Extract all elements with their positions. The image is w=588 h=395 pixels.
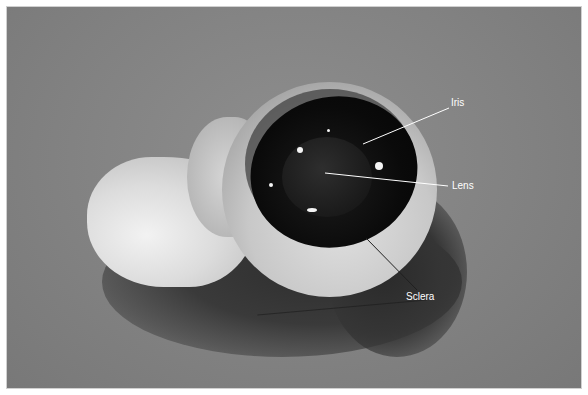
label-sclera: Sclera	[406, 291, 434, 303]
leader-lines	[0, 0, 588, 395]
lens-leader	[325, 173, 448, 186]
label-lens: Lens	[452, 180, 474, 192]
iris-leader	[363, 108, 449, 144]
figure-frame: Iris Lens Sclera	[0, 0, 588, 395]
sclera-leader	[366, 238, 417, 290]
label-iris: Iris	[451, 97, 464, 109]
